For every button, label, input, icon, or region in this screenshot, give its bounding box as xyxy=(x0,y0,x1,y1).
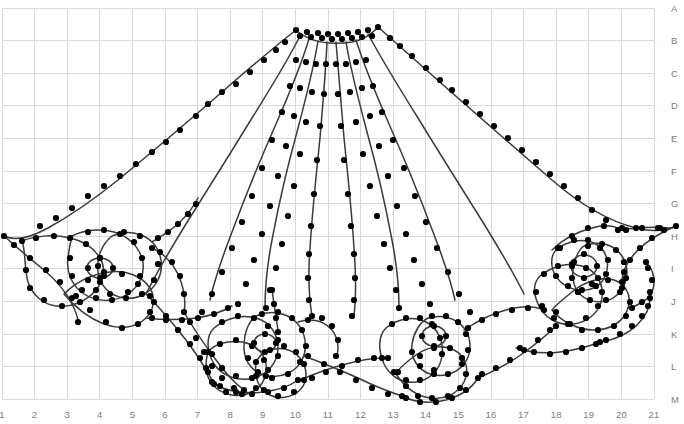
prick-dot xyxy=(179,317,185,323)
prick-dot xyxy=(347,89,353,95)
prick-dot xyxy=(555,263,561,269)
prick-dot xyxy=(673,223,679,229)
prick-dot xyxy=(1,233,7,239)
prick-dot xyxy=(431,371,437,377)
prick-dot xyxy=(175,327,181,333)
prick-dot xyxy=(385,355,391,361)
prick-dot xyxy=(565,321,571,327)
prick-dot xyxy=(621,269,627,275)
prick-dot xyxy=(465,325,471,331)
prick-dot xyxy=(353,119,359,125)
column-label-17: 17 xyxy=(518,409,529,420)
prick-dot xyxy=(379,355,385,361)
prick-dot xyxy=(309,89,315,95)
prick-dot xyxy=(603,217,609,223)
prick-dot xyxy=(219,319,225,325)
prick-dot xyxy=(390,137,396,143)
prick-dot xyxy=(259,165,265,171)
prick-dot xyxy=(517,345,523,351)
prick-dot xyxy=(563,349,569,355)
prick-dot xyxy=(345,30,351,36)
row-label-L: L xyxy=(671,361,676,372)
column-label-20: 20 xyxy=(616,409,627,420)
prick-dot xyxy=(585,243,591,249)
prick-dot xyxy=(101,269,107,275)
prick-dot xyxy=(233,389,239,395)
prick-dot xyxy=(245,355,251,361)
row-label-I: I xyxy=(671,263,674,274)
prick-dot xyxy=(151,277,157,283)
prick-dot xyxy=(507,357,513,363)
prick-dot xyxy=(269,375,275,381)
prick-dot xyxy=(555,245,561,251)
prick-dot xyxy=(601,223,607,229)
prick-dot xyxy=(125,289,131,295)
prick-dot xyxy=(423,219,429,225)
prick-dot xyxy=(371,355,377,361)
prick-dot xyxy=(531,349,537,355)
prick-dot xyxy=(253,385,259,391)
prick-dot xyxy=(569,263,575,269)
prick-dot xyxy=(287,83,293,89)
prick-dot xyxy=(273,47,279,53)
prick-dot xyxy=(243,281,249,287)
prick-dot xyxy=(367,113,373,119)
prick-dot xyxy=(397,43,403,49)
prick-dot xyxy=(553,323,559,329)
prick-dot xyxy=(321,361,327,367)
row-label-H: H xyxy=(671,231,678,242)
prick-dot xyxy=(297,85,303,91)
prick-dot xyxy=(265,367,271,373)
prick-dot xyxy=(575,289,581,295)
prick-dot xyxy=(367,183,373,189)
prick-dot xyxy=(291,183,297,189)
column-label-21: 21 xyxy=(649,409,660,420)
prick-dot xyxy=(131,239,137,245)
column-label-13: 13 xyxy=(388,409,399,420)
prick-dot xyxy=(401,165,407,171)
prick-dot xyxy=(579,327,585,333)
prick-dot xyxy=(177,273,183,279)
prick-dot xyxy=(211,311,217,317)
prick-dot xyxy=(394,203,400,209)
axis-labels-layer: 123456789101112131415161718192021ABCDEFG… xyxy=(0,3,679,421)
prick-dot xyxy=(67,255,73,261)
prick-dot xyxy=(379,109,385,115)
prick-dot xyxy=(337,369,343,375)
prick-dot xyxy=(181,309,187,315)
row-label-J: J xyxy=(671,296,676,307)
prick-dot xyxy=(279,109,285,115)
prick-dot xyxy=(301,377,307,383)
prick-dot xyxy=(505,135,511,141)
prick-dot xyxy=(561,183,567,189)
prick-dot xyxy=(617,331,623,337)
prick-dot xyxy=(317,123,323,129)
prick-dot xyxy=(19,238,25,244)
prick-dot xyxy=(353,59,359,65)
pattern-curve-gimp-ray-5 xyxy=(336,42,356,316)
prick-dot xyxy=(339,36,345,42)
prick-dot xyxy=(359,34,365,40)
prick-dot xyxy=(343,61,349,67)
prick-dot xyxy=(282,39,288,45)
prick-dot xyxy=(417,353,423,359)
prick-dot xyxy=(447,345,453,351)
prick-dot xyxy=(293,27,299,33)
column-label-1: 1 xyxy=(0,409,5,420)
prick-dot xyxy=(308,34,314,40)
prick-dot xyxy=(147,293,153,299)
prick-dot xyxy=(33,235,39,241)
prick-dot xyxy=(539,303,545,309)
prick-dot xyxy=(621,259,627,265)
prick-dot xyxy=(223,389,229,395)
prick-dot xyxy=(547,351,553,357)
prick-dot xyxy=(101,227,107,233)
prick-dot xyxy=(387,35,393,41)
row-label-M: M xyxy=(671,394,679,405)
prick-dot xyxy=(247,69,253,75)
prick-dot xyxy=(303,59,309,65)
grid-layer xyxy=(2,8,654,399)
column-label-6: 6 xyxy=(162,409,167,420)
prick-dot xyxy=(199,309,205,315)
prick-dot xyxy=(439,351,445,357)
